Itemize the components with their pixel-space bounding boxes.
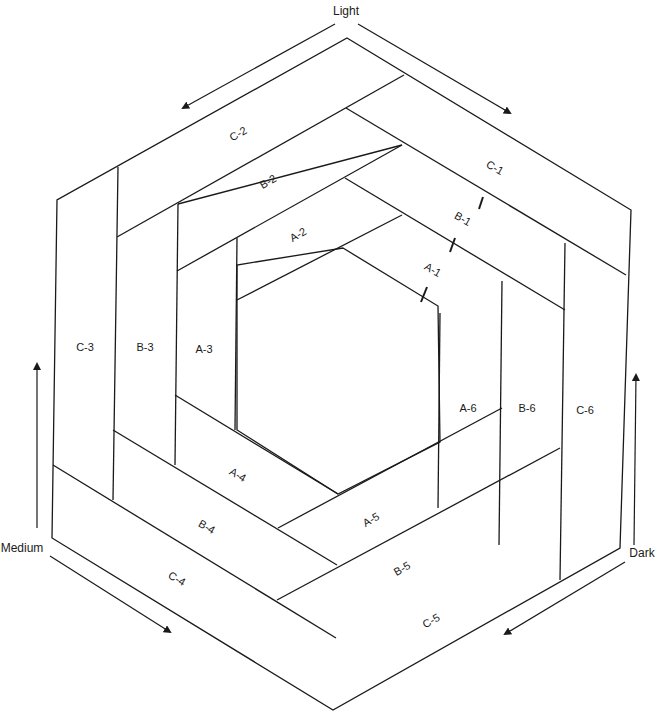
b3-edge (175, 204, 178, 465)
piece-label-b3: B-3 (136, 341, 153, 353)
piece-label-a3: A-3 (195, 343, 212, 355)
c3-edge (113, 167, 118, 500)
outer-hexagon (52, 38, 631, 710)
medium-label: Medium (1, 541, 44, 555)
b6-edge (499, 281, 502, 545)
b2-edge (177, 145, 402, 271)
dark-arrow-down-icon (505, 562, 625, 634)
a2-edge (237, 215, 402, 300)
c5-edge (277, 448, 560, 600)
b1-tick (450, 238, 455, 252)
piece-label-b2: B-2 (258, 172, 279, 191)
a4-edge (175, 395, 338, 494)
piece-label-c5: C-5 (420, 611, 441, 630)
c1-edge (346, 108, 626, 275)
piece-label-b6: B-6 (518, 402, 535, 414)
piece-label-c3: C-3 (76, 341, 94, 353)
b2-edge-a (178, 145, 402, 204)
piece-label-c6: C-6 (576, 404, 594, 416)
light-arrow-right-icon (358, 24, 510, 113)
b5-edge (278, 408, 502, 528)
piece-label-b5: B-5 (392, 559, 413, 578)
light-arrow-left-icon (183, 24, 335, 108)
piece-label-a4: A-4 (228, 465, 249, 484)
piece-label-a6: A-6 (459, 402, 476, 414)
piece-label-a5: A-5 (361, 510, 382, 529)
piece-label-c2: C-2 (227, 124, 248, 143)
a1-tick (421, 287, 427, 302)
c4-edge (53, 465, 336, 638)
c6-edge (560, 243, 565, 580)
piece-label-a2: A-2 (288, 225, 309, 244)
piece-label-b1: B-1 (453, 209, 474, 228)
medium-arrow-down-icon (50, 556, 170, 632)
dark-arrow-up-icon (634, 375, 636, 545)
b1-edge (345, 178, 565, 310)
piece-label-c4: C-4 (166, 569, 187, 588)
piece-label-b4: B-4 (197, 517, 218, 536)
c1-tick (479, 197, 483, 209)
piece-label-c1: C-1 (484, 158, 505, 177)
hexagon-quilt-diagram: Light Medium Dark C-2 B-2 A-2 C-1 B-1 A-… (0, 0, 662, 714)
light-label: Light (333, 4, 360, 18)
dark-label: Dark (629, 546, 655, 560)
piece-label-a1: A-1 (423, 260, 444, 279)
b4-edge (113, 430, 337, 565)
